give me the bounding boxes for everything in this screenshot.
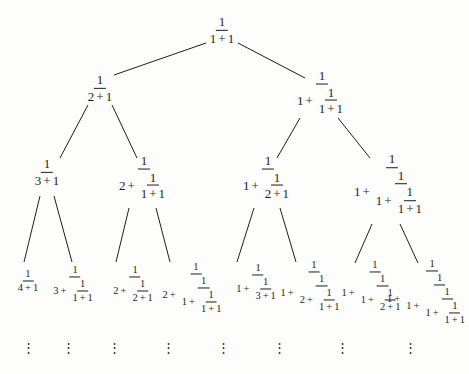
tree-node-n5: 1 1 + 1 2 + 1	[239, 154, 297, 201]
tree-node-n8: 1 3 + 1 1 + 1	[49, 264, 101, 303]
denominator: 1 + 1	[207, 31, 237, 46]
tree-node-n7: 1 4 + 1	[14, 268, 42, 293]
nested-fraction: 1 1 + 1 1 + 1 1	[403, 272, 469, 325]
numerator: 1	[216, 15, 229, 31]
denominator: 4 + 1	[15, 282, 41, 294]
tree-node-n14: 1 1 + 1 1 + 1 1 +	[383, 258, 469, 325]
continuation-ellipsis: ⋮	[108, 340, 121, 356]
numerator: 1	[41, 157, 54, 173]
denominator: 2 + 1	[85, 89, 115, 104]
tree-node-n1: 1 2 + 1	[84, 73, 116, 103]
denominator: 1 + 1 1 + 1 1 + 1	[351, 168, 433, 216]
edge-n4-n9	[116, 208, 129, 262]
edge-n3-n7	[24, 196, 40, 262]
continuation-ellipsis: ⋮	[22, 340, 35, 356]
edge-n1-n4	[112, 105, 137, 158]
nested-fraction: 1 1 + 1 1 + 1	[422, 286, 469, 325]
nested-fraction: 1 1 + 1	[138, 170, 168, 200]
denominator: 1 + 1 1 + 1 1 + 1	[384, 271, 469, 325]
denominator: 1 + 1 1 + 1	[294, 84, 350, 115]
continued-fraction-tree: 1 1 + 1 1 2 + 1 1 1 + 1	[0, 0, 469, 374]
continuation-ellipsis: ⋮	[217, 340, 230, 356]
denominator: 3 + 1 1 + 1	[50, 277, 100, 303]
nested-fraction: 1 2 + 1	[129, 278, 155, 303]
numerator: 1	[386, 152, 399, 168]
numerator: 1	[308, 259, 319, 272]
numerator: 1	[369, 259, 380, 272]
nested-fraction: 1 1 + 1	[316, 85, 346, 115]
denominator: 1 + 1 2 + 1	[240, 169, 296, 200]
denominator: 2 + 1 1 + 1 1 + 1	[160, 274, 233, 314]
denominator: 3 + 1	[32, 173, 62, 188]
numerator: 1	[138, 154, 151, 170]
tree-node-n10: 1 2 + 1 1 + 1 1 + 1	[159, 261, 234, 314]
edge-n6-n14	[400, 224, 418, 263]
tree-node-root: 1 1 + 1	[206, 15, 238, 45]
nested-fraction: 1 2 + 1	[262, 170, 292, 200]
denominator: 2 + 1 2 + 1	[110, 277, 160, 303]
nested-fraction: 1 1 + 1	[69, 278, 95, 303]
nested-fraction: 1 1 + 1 1 + 1	[179, 275, 229, 314]
nested-fraction: 1 1 + 1 1 + 1	[373, 169, 429, 216]
nested-fraction: 1 3 + 1	[252, 276, 278, 301]
tree-node-n2: 1 1 + 1 1 + 1	[293, 69, 351, 116]
edge-n5-n11	[237, 208, 254, 262]
nested-fraction: 1 1 + 1	[198, 290, 224, 315]
continuation-ellipsis: ⋮	[336, 340, 349, 356]
edge-n4-n10	[156, 208, 170, 262]
edge-n6-n13	[355, 224, 372, 263]
tree-node-n3: 1 3 + 1	[31, 157, 63, 187]
numerator: 1	[129, 264, 140, 277]
numerator: 1	[69, 264, 80, 277]
edge-n1-n3	[60, 105, 88, 158]
continuation-ellipsis: ⋮	[162, 340, 175, 356]
numerator: 1	[262, 154, 275, 170]
numerator: 1	[190, 261, 201, 274]
tree-node-n9: 1 2 + 1 2 + 1	[109, 264, 161, 303]
edge-n3-n8	[54, 196, 72, 262]
numerator: 1	[252, 262, 263, 275]
edge-n0-n1	[114, 43, 206, 75]
edge-n5-n12	[280, 208, 296, 262]
continuation-ellipsis: ⋮	[273, 340, 286, 356]
denominator: 1 + 1 3 + 1	[233, 275, 283, 301]
nested-fraction: 1 1 + 1	[442, 301, 468, 326]
numerator: 1	[316, 69, 329, 85]
numerator: 1	[426, 258, 437, 271]
continuation-ellipsis: ⋮	[62, 340, 75, 356]
nested-fraction: 1 1 + 1	[395, 186, 425, 216]
edge-n2-n5	[277, 118, 300, 158]
tree-node-n4: 1 2 + 1 1 + 1	[115, 154, 173, 201]
numerator: 1	[22, 268, 33, 281]
tree-node-n6: 1 1 + 1 1 + 1 1 + 1	[350, 152, 434, 216]
numerator: 1	[94, 73, 107, 89]
continuation-ellipsis: ⋮	[404, 340, 417, 356]
denominator: 2 + 1 1 + 1	[116, 169, 172, 200]
